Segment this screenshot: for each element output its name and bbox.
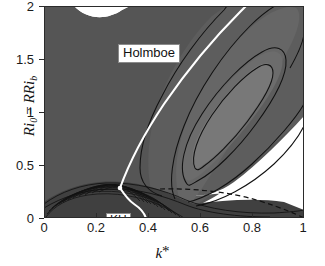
x-ticklabel-4: 0.8 (243, 220, 261, 235)
annotation-kh: KH (106, 213, 131, 218)
y-axis-label-rhs-sub: b (28, 76, 39, 81)
y-axis-label-lhs: Ri (21, 123, 37, 136)
y-tick-1 (39, 165, 44, 166)
annotation-holmboe: Holmboe (118, 44, 180, 63)
y-tick-4 (39, 6, 44, 7)
y-ticklabel-0: 0 (4, 211, 34, 226)
x-ticklabel-5: 1 (299, 220, 306, 235)
y-tick-0 (39, 218, 44, 219)
x-ticklabel-2: 0.4 (139, 220, 157, 235)
x-axis-label-star: * (162, 243, 170, 259)
plot-area: Holmboe KH (44, 6, 304, 218)
x-tick-2 (148, 213, 149, 218)
x-tick-0 (44, 213, 45, 218)
y-tick-3 (39, 59, 44, 60)
x-tick-1 (96, 213, 97, 218)
x-ticklabel-0: 0 (40, 220, 47, 235)
y-axis-label-rhs: RRi (21, 81, 37, 104)
contour-plot-svg (44, 6, 304, 218)
y-axis-label: Ri0=RRib (21, 16, 40, 196)
y-ticklabel-4: 2 (4, 0, 34, 14)
x-axis-label: k* (0, 243, 325, 262)
x-ticklabel-1: 0.2 (87, 220, 105, 235)
x-tick-4 (252, 213, 253, 218)
stability-diagram-figure: Holmboe KH 0 0.2 0.4 0.6 0.8 1 0 0.5 1 1… (0, 0, 325, 266)
y-tick-2 (39, 112, 44, 113)
y-axis-label-lhs-sub: 0 (28, 118, 39, 123)
x-tick-3 (200, 213, 201, 218)
y-axis-label-equals: = (21, 103, 37, 117)
x-tick-5 (303, 213, 304, 218)
ridge-branch-point (118, 186, 123, 191)
x-ticklabel-3: 0.6 (191, 220, 209, 235)
